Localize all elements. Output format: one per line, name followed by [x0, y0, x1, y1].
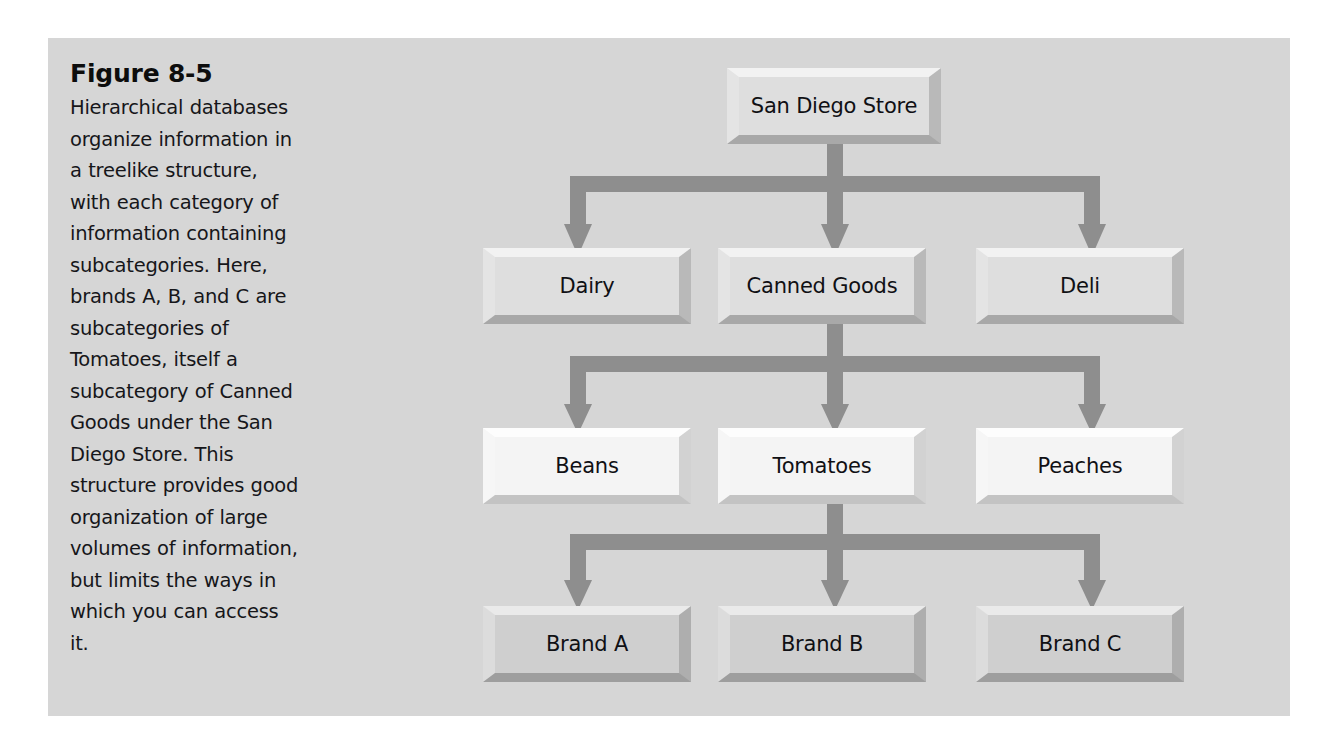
figure-caption-block: Figure 8-5 Hierarchical databases organi…	[70, 60, 302, 659]
node-label: Peaches	[1037, 454, 1122, 478]
node-tomatoes[interactable]: Tomatoes	[718, 428, 926, 504]
node-label: Brand C	[1039, 632, 1122, 656]
node-peaches[interactable]: Peaches	[976, 428, 1184, 504]
figure-number-title: Figure 8-5	[70, 60, 302, 88]
node-label: Brand B	[781, 632, 863, 656]
node-label: Deli	[1060, 274, 1100, 298]
connector-level1-to-level2	[497, 140, 1197, 262]
node-label: Beans	[555, 454, 618, 478]
node-deli[interactable]: Deli	[976, 248, 1184, 324]
node-brand-b[interactable]: Brand B	[718, 606, 926, 682]
connector-level2-to-level3	[497, 320, 1197, 440]
node-label: Brand A	[546, 632, 628, 656]
node-canned-goods[interactable]: Canned Goods	[718, 248, 926, 324]
node-brand-a[interactable]: Brand A	[483, 606, 691, 682]
node-label: Canned Goods	[747, 274, 898, 298]
connector-level3-to-level4	[497, 500, 1197, 618]
node-label: Dairy	[560, 274, 615, 298]
node-brand-c[interactable]: Brand C	[976, 606, 1184, 682]
figure-root: Figure 8-5 Hierarchical databases organi…	[0, 0, 1338, 749]
figure-caption-text: Hierarchical databases organize informat…	[70, 92, 302, 659]
node-label: Tomatoes	[773, 454, 872, 478]
node-dairy[interactable]: Dairy	[483, 248, 691, 324]
node-label: San Diego Store	[751, 94, 917, 118]
node-beans[interactable]: Beans	[483, 428, 691, 504]
node-san-diego-store[interactable]: San Diego Store	[727, 68, 941, 144]
